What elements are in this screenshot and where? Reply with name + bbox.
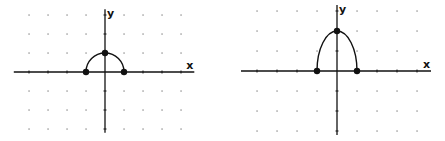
grid-dot (356, 30, 357, 31)
plotted-point (334, 28, 340, 34)
grid-dot (180, 14, 181, 15)
grid-dot (376, 50, 377, 51)
grid-dot (416, 130, 417, 131)
grid-dot (256, 30, 257, 31)
grid-dot (296, 110, 297, 111)
graph-left: xy (14, 7, 195, 133)
grid-dot (66, 52, 67, 53)
grid-dot (316, 130, 317, 131)
grid-dot (396, 90, 397, 91)
grid-dot (161, 128, 162, 129)
grid-dot (161, 33, 162, 34)
grid-dot (28, 52, 29, 53)
grid-dot (47, 52, 48, 53)
grid-dot (180, 33, 181, 34)
grid-dot (356, 10, 357, 11)
grid-dot (356, 110, 357, 111)
grid-dot (66, 33, 67, 34)
graphs-canvas: xy xy (0, 0, 445, 141)
grid-dot (376, 130, 377, 131)
grid-dot (47, 109, 48, 110)
grid-dot (396, 50, 397, 51)
grid-dot (276, 130, 277, 131)
grid-dot (276, 90, 277, 91)
grid-dot (142, 90, 143, 91)
grid-dot (123, 90, 124, 91)
grid-dot (276, 110, 277, 111)
grid-dot (180, 52, 181, 53)
grid-dot (66, 14, 67, 15)
grid-dot (276, 30, 277, 31)
grid-dot (123, 109, 124, 110)
grid-dot (356, 130, 357, 131)
plotted-point (314, 68, 320, 74)
grid-dot (47, 90, 48, 91)
y-axis-label: y (339, 3, 346, 16)
grid-dot (256, 50, 257, 51)
grid-dot (47, 33, 48, 34)
x-axis-label: x (423, 58, 430, 71)
grid-dot (47, 14, 48, 15)
grid-dot (296, 10, 297, 11)
grid-dot (296, 90, 297, 91)
grid-dot (276, 50, 277, 51)
grid-dot (180, 128, 181, 129)
grid-dot (376, 110, 377, 111)
grid-dot (66, 90, 67, 91)
graph-right: xy (241, 3, 431, 135)
plotted-point (121, 69, 127, 75)
grid-dot (161, 90, 162, 91)
grid-dot (123, 14, 124, 15)
grid-dot (416, 30, 417, 31)
grid-dot (142, 52, 143, 53)
grid-dot (416, 110, 417, 111)
grid-dot (161, 14, 162, 15)
grid-dot (316, 110, 317, 111)
grid-dot (396, 30, 397, 31)
grid-dot (85, 128, 86, 129)
grid-dot (256, 90, 257, 91)
grid-dot (85, 90, 86, 91)
grid-dot (276, 10, 277, 11)
grid-dot (376, 10, 377, 11)
grid-dot (28, 109, 29, 110)
grid-dot (47, 128, 48, 129)
grid-dot (180, 90, 181, 91)
x-axis-label: x (186, 59, 193, 72)
grid-dot (142, 109, 143, 110)
grid-dot (85, 33, 86, 34)
grid-dot (396, 10, 397, 11)
grid-dot (28, 128, 29, 129)
grid-dot (396, 130, 397, 131)
grid-dot (123, 52, 124, 53)
grid-dot (66, 109, 67, 110)
grid-dot (66, 128, 67, 129)
grid-dot (356, 90, 357, 91)
grid-dot (142, 33, 143, 34)
grid-dot (28, 90, 29, 91)
plotted-point (354, 68, 360, 74)
grid-dot (416, 10, 417, 11)
grid-dot (28, 14, 29, 15)
grid-dot (296, 30, 297, 31)
grid-dot (85, 14, 86, 15)
grid-dot (316, 50, 317, 51)
grid-dot (28, 33, 29, 34)
grid-dot (376, 90, 377, 91)
grid-dot (161, 52, 162, 53)
grid-dot (256, 110, 257, 111)
grid-dot (123, 33, 124, 34)
grid-dot (396, 110, 397, 111)
grid-dot (256, 130, 257, 131)
grid-dot (416, 90, 417, 91)
grid-dot (316, 30, 317, 31)
plotted-point (83, 69, 89, 75)
grid-dot (416, 50, 417, 51)
grid-dot (296, 130, 297, 131)
grid-dot (296, 50, 297, 51)
y-axis-label: y (107, 7, 114, 20)
grid-dot (316, 10, 317, 11)
grid-dot (85, 109, 86, 110)
grid-dot (85, 52, 86, 53)
grid-dot (316, 90, 317, 91)
